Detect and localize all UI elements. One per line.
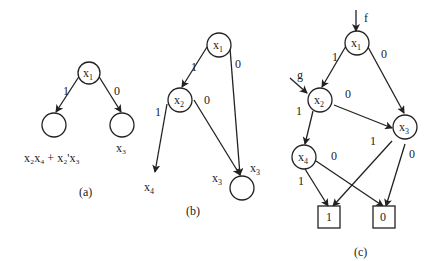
edge-label-b-x2-1: 1 <box>155 105 161 119</box>
leaf-b <box>230 176 254 200</box>
edge-label-a-1: 1 <box>63 84 69 98</box>
edge-c-x3-0 <box>386 144 405 206</box>
edge-label-b-x1-0: 0 <box>235 57 241 71</box>
terminal-0-label: 0 <box>380 210 386 224</box>
edge-label-c-x2-1: 1 <box>296 104 302 118</box>
leaf-a-right-label: x₃ <box>116 141 126 155</box>
edge-label-c-x2-0: 0 <box>345 87 351 101</box>
terminal-1-label: 1 <box>326 210 332 224</box>
label-b-x3-right: x3 <box>250 161 260 177</box>
diagram-a: x1 1 0 x₂x₄ + x₂'x₃ x₃ (a) <box>24 62 134 199</box>
label-b-x4: x4 <box>144 180 154 196</box>
caption-a: (a) <box>79 185 92 199</box>
edge-c-x4-1 <box>305 169 328 206</box>
input-f-label: f <box>364 11 368 25</box>
leaf-a-right <box>110 113 134 137</box>
leaf-a-left <box>42 113 66 137</box>
edge-label-c-x1-1: 1 <box>332 50 338 64</box>
leaf-a-left-label: x₂x₄ + x₂'x₃ <box>24 151 80 165</box>
edge-label-c-x3-0: 0 <box>409 147 415 161</box>
edge-c-x2-1 <box>305 111 313 144</box>
edge-b-x2-0 <box>194 100 240 175</box>
diagram-b: x1 x2 1 0 1 0 x4 x3 x3 (b) <box>144 33 260 218</box>
edge-c-x3-1 <box>333 141 392 206</box>
diagram-c: f g x1 x2 x3 x4 1 0 1 0 1 0 1 0 1 0 <box>290 10 417 259</box>
caption-c: (c) <box>354 245 367 259</box>
edge-label-b-x1-1: 1 <box>191 60 197 74</box>
edge-label-c-x4-1: 1 <box>298 174 304 188</box>
label-b-x3-left: x3 <box>212 171 222 187</box>
edge-label-c-x3-1: 1 <box>370 134 376 148</box>
caption-b: (b) <box>186 204 200 218</box>
edge-c-x4-0 <box>316 161 383 206</box>
input-g-label: g <box>297 68 303 82</box>
edge-label-a-0: 0 <box>114 84 120 98</box>
edge-c-x2-0 <box>334 105 392 128</box>
bdd-figure: x1 1 0 x₂x₄ + x₂'x₃ x₃ (a) x1 x2 1 0 1 0… <box>0 0 440 261</box>
edge-label-c-x1-0: 0 <box>381 47 387 61</box>
edge-label-c-x4-0: 0 <box>331 149 337 163</box>
edge-label-b-x2-0: 0 <box>204 93 210 107</box>
